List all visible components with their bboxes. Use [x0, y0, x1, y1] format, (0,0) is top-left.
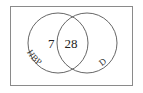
venn-diagram: 7 28 HBP D [0, 0, 143, 93]
region-intersection-value: 28 [65, 36, 78, 51]
region-left-only-value: 7 [48, 36, 55, 51]
set-label-d: D [97, 56, 109, 68]
set-label-hbp: HBP [25, 48, 44, 68]
